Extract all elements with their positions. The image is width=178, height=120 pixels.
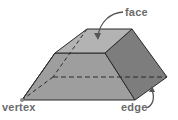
face-label: face: [125, 7, 148, 18]
vertex-label: vertex: [2, 102, 36, 113]
frustum-diagram: face vertex edge: [0, 0, 178, 120]
edge-label: edge: [121, 102, 147, 113]
